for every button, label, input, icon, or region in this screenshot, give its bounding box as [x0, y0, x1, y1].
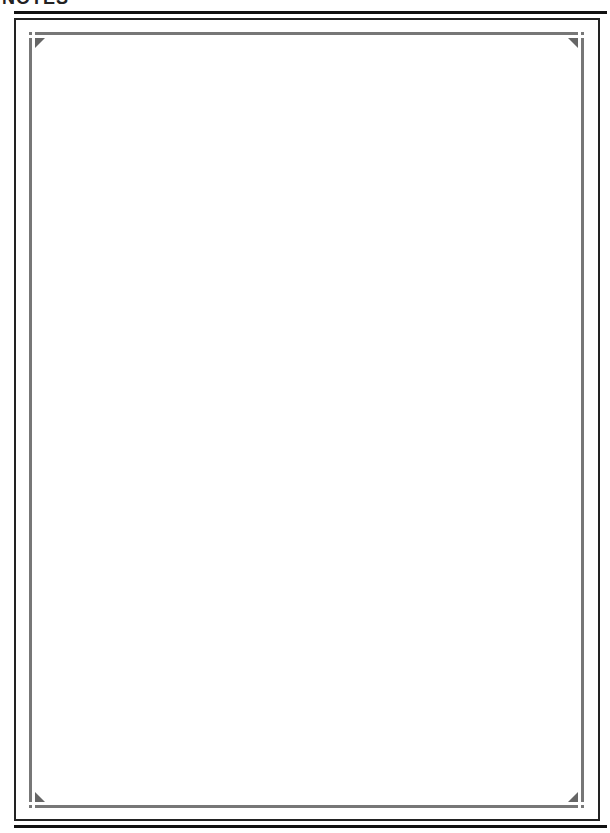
bottom-rule — [14, 825, 607, 828]
frame-line-right — [581, 38, 584, 802]
notes-writing-area[interactable] — [40, 45, 572, 795]
corner-dot-top-left — [29, 32, 32, 35]
frame-line-left — [29, 38, 32, 802]
frame-line-top — [35, 32, 578, 35]
frame-line-bottom — [35, 805, 578, 808]
corner-dot-top-right — [581, 32, 584, 35]
corner-dot-bottom-left — [29, 805, 32, 808]
corner-dot-bottom-right — [581, 805, 584, 808]
page-title: NOTES — [2, 0, 69, 9]
top-rule — [14, 11, 607, 14]
